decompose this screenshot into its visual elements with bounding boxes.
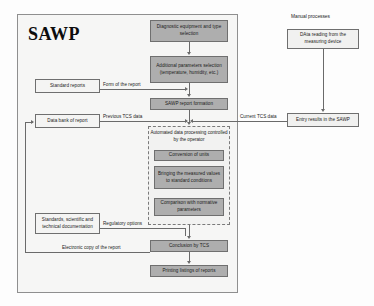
node-additional-parameters-label: Additional parameters selection (tempera… (153, 63, 225, 76)
node-additional-parameters[interactable]: Additional parameters selection (tempera… (150, 56, 228, 83)
node-sawp-report-formation[interactable]: SAWP report formation (150, 98, 228, 110)
node-bringing-measured-values-label: Bringing the measured values to standard… (157, 171, 221, 184)
node-comparison-normative-parameters[interactable]: Comparison with normative parameters (154, 198, 224, 216)
node-printing-listings[interactable]: Printing listings of reports (150, 265, 228, 277)
arrowhead-to-entry-results (321, 109, 325, 112)
connector-additional-to-report-formation (189, 83, 190, 94)
arrowhead-form-of-report (185, 87, 188, 91)
node-entry-results-sawp[interactable]: Entry results in the SAWP (287, 113, 359, 127)
connector-conclusion-to-printing (189, 252, 190, 261)
arrowhead-current-tcs-data (190, 119, 193, 123)
node-data-reading-measuring-device-label: DAta reading from the measuring device (290, 32, 356, 45)
node-conversion-of-units[interactable]: Conversion of units (154, 150, 224, 161)
connector-standard-reports-to-flow (100, 89, 185, 90)
connector-entry-results-to-flow (193, 121, 287, 122)
connector-data-reading-to-entry-results (323, 49, 324, 109)
edge-label-form-of-report: Form of the report (103, 82, 141, 87)
edge-label-previous-tcs-data: Previous TCS data (103, 114, 142, 119)
arrowhead-to-report-formation (187, 94, 191, 97)
sawp-title: SAWP (28, 24, 80, 45)
connector-data-bank-to-flow (100, 121, 187, 122)
arrowhead-to-printing-listings (187, 261, 191, 264)
connector-feedback-vertical (25, 122, 26, 252)
node-conclusion-by-tcs[interactable]: Conclusion by TCS (150, 240, 228, 252)
manual-processes-title: Manual processes (291, 14, 330, 19)
node-conclusion-by-tcs-label: Conclusion by TCS (169, 243, 209, 250)
node-diagnostic-equipment-label: Diagnostic equipment and type selection (153, 24, 225, 37)
arrowhead-to-conclusion (187, 236, 191, 239)
edge-label-regulatory-options: Regulatory options (103, 221, 142, 226)
connector-processing-to-conclusion (189, 225, 190, 236)
node-data-bank-of-report-label: Data bank of report (47, 118, 87, 125)
connector-standards-to-conclusion (100, 228, 185, 229)
node-conversion-of-units-label: Conversion of units (169, 152, 209, 159)
connector-standards-riser (185, 228, 186, 236)
node-standard-reports-label: Standard reports (50, 83, 85, 90)
connector-feedback-horizontal (25, 252, 150, 253)
node-comparison-normative-parameters-label: Comparison with normative parameters (157, 200, 221, 213)
node-standard-reports[interactable]: Standard reports (35, 79, 100, 93)
node-sawp-report-formation-label: SAWP report formation (165, 101, 213, 108)
node-data-bank-of-report[interactable]: Data bank of report (35, 114, 100, 128)
edge-label-current-tcs-data: Current TCS data (240, 114, 277, 119)
arrowhead-to-additional-parameters (187, 52, 191, 55)
node-standards-documentation-label: Standards, scientific and technical docu… (38, 217, 97, 230)
arrowhead-electronic-copy (31, 120, 34, 124)
edge-label-electronic-copy: Electronic copy of the report (62, 245, 121, 250)
node-data-reading-measuring-device[interactable]: DAta reading from the measuring device (287, 29, 359, 49)
arrowhead-previous-tcs-data (185, 119, 188, 123)
node-standards-documentation[interactable]: Standards, scientific and technical docu… (35, 213, 100, 234)
node-bringing-measured-values[interactable]: Bringing the measured values to standard… (154, 166, 224, 189)
node-printing-listings-label: Printing listings of reports (163, 268, 216, 275)
connector-diagnostic-to-additional (189, 42, 190, 52)
node-diagnostic-equipment[interactable]: Diagnostic equipment and type selection (150, 20, 228, 42)
group-automated-data-processing-label: Automated data processing controlled by … (149, 130, 229, 143)
diagram-canvas: SAWP Diagnostic equipment and type selec… (0, 0, 374, 306)
node-entry-results-sawp-label: Entry results in the SAWP (296, 117, 350, 124)
